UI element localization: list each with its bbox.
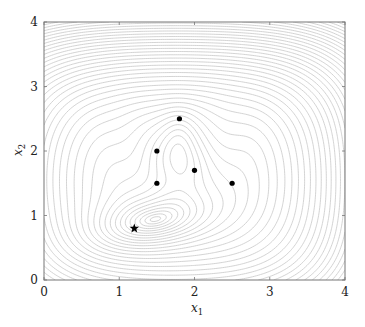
- y-tick-label-0: 0: [30, 273, 38, 287]
- data-point-dot: [154, 148, 159, 153]
- background: [0, 0, 365, 327]
- data-point-dot: [230, 181, 235, 186]
- x-tick-label-1: 1: [115, 285, 123, 299]
- x-tick-label-2: 2: [191, 285, 199, 299]
- x-tick-label-3: 3: [266, 285, 274, 299]
- data-point-dot: [177, 116, 182, 121]
- contour-chart: 0 1 2 3 4 0 1 2 3 4 x1 x2: [0, 0, 365, 327]
- y-tick-label-2: 2: [30, 144, 38, 158]
- data-point-dot: [192, 168, 197, 173]
- x-axis-label-sub: 1: [198, 307, 203, 317]
- x-tick-label-4: 4: [341, 285, 349, 299]
- y-tick-label-1: 1: [30, 209, 38, 223]
- data-point-dot: [154, 181, 159, 186]
- x-tick-label-0: 0: [40, 285, 48, 299]
- y-tick-label-4: 4: [30, 15, 38, 29]
- y-tick-label-3: 3: [30, 80, 38, 94]
- y-axis-label-sub: 2: [17, 144, 27, 149]
